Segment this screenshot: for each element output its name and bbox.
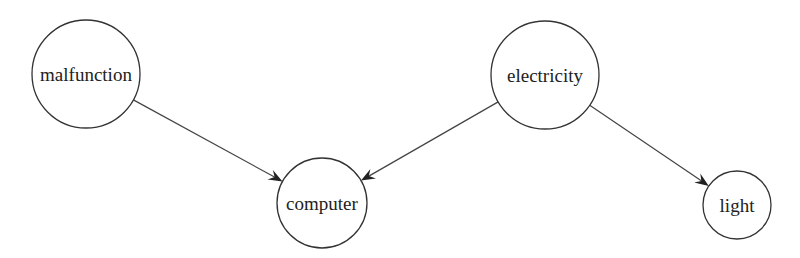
node-label: malfunction	[40, 64, 132, 85]
edge-malfunction-to-computer	[133, 100, 282, 181]
node-label: computer	[286, 193, 358, 214]
node-label: light	[720, 195, 756, 216]
edge-electricity-to-computer	[361, 102, 498, 181]
edge-electricity-to-light	[590, 105, 709, 186]
edges	[133, 100, 708, 186]
edge-line	[366, 102, 498, 178]
node-light: light	[703, 171, 771, 239]
causal-graph: malfunctioncomputerelectricitylight	[0, 0, 800, 258]
nodes: malfunctioncomputerelectricitylight	[32, 20, 771, 248]
arrowhead-icon	[361, 169, 376, 181]
arrowhead-icon	[268, 170, 283, 182]
node-computer: computer	[277, 158, 367, 248]
node-malfunction: malfunction	[32, 20, 140, 128]
node-electricity: electricity	[491, 21, 599, 129]
arrowhead-icon	[694, 174, 709, 186]
edge-line	[590, 105, 704, 182]
edge-line	[133, 100, 277, 179]
node-label: electricity	[507, 65, 583, 86]
